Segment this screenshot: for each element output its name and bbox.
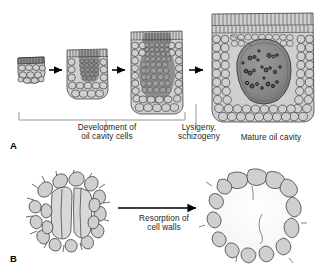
- oil-cavity-lumen: [237, 39, 291, 104]
- panel-label-b: B: [10, 253, 17, 264]
- stage-3-dark-cell-mass: [131, 31, 183, 114]
- caption-lysigeny-schizogeny: Lysigeny, schizogeny: [168, 123, 230, 142]
- stage-1-initial-cell-cluster: [18, 57, 45, 83]
- stage-4-mature-oil-cavity: [212, 13, 314, 122]
- caption-development-of-oil-cavity-cells: Development of oil cavity cells: [54, 123, 160, 142]
- stage-2-dividing-cells: [67, 49, 108, 99]
- panel-label-a: A: [10, 140, 17, 151]
- caption-mature-oil-cavity: Mature oil cavity: [228, 133, 314, 142]
- caption-resorption-of-cell-walls: Resorption of cell walls: [122, 214, 206, 233]
